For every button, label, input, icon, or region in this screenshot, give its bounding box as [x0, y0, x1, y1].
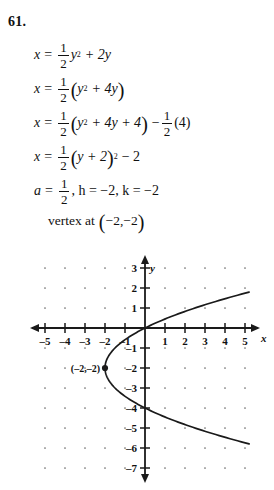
y-axis-tick-label: 1: [132, 302, 138, 314]
grid-dot: [184, 387, 186, 389]
step4-inner: y + 2: [77, 149, 107, 165]
grid-dot: [84, 447, 86, 449]
grid-dot: [164, 447, 166, 449]
grid-dot: [104, 427, 106, 429]
grid-dot: [104, 407, 106, 409]
y-axis: [141, 255, 149, 483]
grid-dot: [84, 287, 86, 289]
step1-tail: + 2y: [85, 47, 111, 63]
grid-dot: [204, 267, 206, 269]
grid-dot: [244, 447, 246, 449]
step2-inner: y: [77, 81, 83, 97]
grid-dot: [184, 467, 186, 469]
grid-dot: [244, 287, 246, 289]
grid-dot: [224, 427, 226, 429]
step4-tail: − 2: [122, 149, 140, 165]
grid-dot: [204, 367, 206, 369]
step5-hk-values: , h = −2, k = −2: [71, 183, 159, 199]
y-axis-name-label: y: [148, 262, 155, 274]
equation-step-3: x = 1 2 ( y2 + 4y + 4 ) − 1 2 (4): [34, 106, 254, 140]
grid-dot: [164, 407, 166, 409]
x-axis-tick-label: –3: [79, 335, 92, 347]
grid-dot: [84, 267, 86, 269]
step3-inner-tail: + 4y + 4: [92, 115, 142, 131]
grid-dot: [84, 387, 86, 389]
grid-dot: [104, 307, 106, 309]
step5-frac-denominator: 2: [59, 192, 70, 206]
grid-dot: [164, 307, 166, 309]
grid-dot: [44, 287, 46, 289]
step1-frac-numerator: 1: [58, 41, 69, 56]
y-axis-tick-label: –1: [125, 342, 137, 354]
step5-fraction: 1 2: [59, 177, 70, 206]
step5-frac-numerator: 1: [59, 177, 70, 192]
grid-dot: [64, 367, 66, 369]
grid-dot: [44, 387, 46, 389]
x-axis-tick-label: –5: [39, 335, 52, 347]
grid-dot: [64, 407, 66, 409]
grid-dot: [44, 427, 46, 429]
x-axis-left-arrowhead: [30, 324, 39, 332]
grid-dot: [104, 387, 106, 389]
worked-solution-page: 61. x = 1 2 y2 + 2y x = 1 2 (: [0, 0, 274, 490]
step3-frac2-denominator: 2: [162, 124, 173, 138]
grid-dot: [84, 427, 86, 429]
x-axis-tick-label: 5: [242, 335, 248, 347]
grid-dot: [44, 367, 46, 369]
step3-equals: =: [44, 115, 52, 131]
step4-equals: =: [44, 149, 52, 165]
y-axis-tick-label: –2: [125, 362, 138, 374]
grid-dot: [224, 267, 226, 269]
vertex-point-marker: [102, 365, 108, 371]
grid-dot: [184, 447, 186, 449]
grid-dot: [224, 407, 226, 409]
step4-fraction: 1 2: [58, 143, 69, 172]
grid-dot: [64, 427, 66, 429]
y-axis-bottom-arrowhead: [141, 474, 149, 483]
x-axis-ticks: –5–4–3–2–112345: [39, 323, 249, 347]
vertex-statement: vertex at ( −2,−2 ): [34, 208, 254, 234]
equation-step-4: x = 1 2 ( y + 2 )2 − 2: [34, 140, 254, 174]
grid-dot: [124, 287, 126, 289]
y-axis-tick-label: 2: [132, 282, 138, 294]
grid-dot: [184, 427, 186, 429]
grid-dot: [84, 407, 86, 409]
grid-dot: [184, 287, 186, 289]
grid-dot: [224, 447, 226, 449]
grid-dot: [104, 467, 106, 469]
grid-dot: [184, 347, 186, 349]
y-axis-top-arrowhead: [141, 255, 149, 264]
grid-dot: [224, 387, 226, 389]
equation-step-5: a = 1 2 , h = −2, k = −2: [34, 174, 254, 208]
grid-dot: [244, 427, 246, 429]
vertex-point-label: (–2,–2): [71, 363, 100, 375]
grid-dot: [64, 267, 66, 269]
grid-dot: [164, 467, 166, 469]
x-axis-tick-label: –4: [59, 335, 72, 347]
coordinate-graph: –5–4–3–2–112345 321–1–2–3–4–5–6–7 x y (–…: [0, 250, 274, 490]
grid-dot: [204, 427, 206, 429]
step1-fraction: 1 2: [58, 41, 69, 70]
step1-frac-denominator: 2: [58, 56, 69, 70]
grid-dot: [204, 347, 206, 349]
y-axis-tick-label: –7: [125, 462, 138, 474]
grid-dot: [164, 267, 166, 269]
step3-frac1-denominator: 2: [58, 124, 69, 138]
grid-dot: [164, 347, 166, 349]
grid-dot: [84, 347, 86, 349]
graph-svg: –5–4–3–2–112345 321–1–2–3–4–5–6–7 x y (–…: [0, 250, 274, 490]
grid-dot: [244, 407, 246, 409]
x-axis-tick-label: –2: [99, 335, 112, 347]
grid-dot: [104, 347, 106, 349]
step3-minus: −: [152, 115, 160, 131]
grid-dot: [244, 467, 246, 469]
grid-dot: [184, 407, 186, 409]
problem-number: 61.: [8, 14, 26, 30]
grid-dot: [124, 307, 126, 309]
grid-dot: [64, 307, 66, 309]
step4-lhs: x: [34, 149, 40, 165]
grid-dot: [244, 387, 246, 389]
y-axis-tick-label: –6: [125, 442, 138, 454]
step2-fraction: 1 2: [58, 75, 69, 104]
step3-frac2-numerator: 1: [162, 109, 173, 124]
